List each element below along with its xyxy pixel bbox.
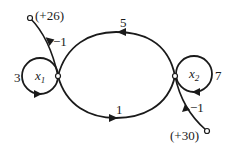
node-label-x1: x1 xyxy=(34,68,45,85)
input-terminal-x2 xyxy=(205,129,210,134)
node-x2 xyxy=(173,74,178,79)
input-label-x1: (+26) xyxy=(35,8,64,23)
edge-gain-x2-x1: 5 xyxy=(120,15,127,30)
input-gain-x2: −1 xyxy=(190,100,204,115)
signal-flow-graph: (+26) −1 (+30) −1 3 7 5 1 x1 x2 xyxy=(0,0,228,145)
self-loop-gain-x1: 3 xyxy=(14,70,21,85)
node-label-x2: x2 xyxy=(188,66,200,83)
self-loop-gain-x2: 7 xyxy=(215,68,222,83)
node-x1 xyxy=(56,74,61,79)
input-gain-x1: −1 xyxy=(53,34,67,49)
input-label-x2: (+30) xyxy=(170,128,199,143)
arrow-icon xyxy=(192,88,200,96)
arrow-icon xyxy=(34,90,42,98)
input-terminal-x1 xyxy=(28,16,33,21)
edge-gain-x1-x2: 1 xyxy=(116,102,123,117)
edge-x2-to-x1 xyxy=(58,32,175,76)
